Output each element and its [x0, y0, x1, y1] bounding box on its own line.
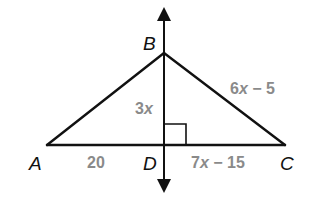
measure-bc-rest: − 5 — [248, 80, 275, 97]
measure-dc-coef: 7 — [191, 154, 200, 171]
measure-dc-rest: − 15 — [209, 154, 245, 171]
segment-bc — [164, 53, 285, 145]
point-label-a: A — [28, 153, 42, 174]
measure-ad: 20 — [87, 154, 105, 171]
measure-bc: 6x − 5 — [230, 80, 275, 97]
point-label-c: C — [280, 153, 294, 174]
point-label-b: B — [143, 33, 156, 54]
point-label-d: D — [143, 153, 157, 174]
triangle-diagram: B A D C 20 7x − 15 3x 6x − 5 — [0, 0, 312, 200]
measure-dc: 7x − 15 — [191, 154, 245, 171]
measure-bd: 3x — [135, 100, 154, 117]
measure-ad-coef: 20 — [87, 154, 105, 171]
segment-ab — [47, 53, 164, 145]
measure-bd-coef: 3 — [135, 100, 144, 117]
measure-bc-coef: 6 — [230, 80, 239, 97]
right-angle-marker — [164, 124, 186, 145]
measure-bd-var: x — [143, 100, 154, 117]
